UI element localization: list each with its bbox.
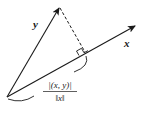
perpendicular-dashed-line <box>60 8 85 52</box>
label-x: x <box>123 37 130 49</box>
brace-curve <box>8 56 87 101</box>
formula-numerator: |(x, y)| <box>48 80 71 90</box>
label-y: y <box>31 18 38 30</box>
formula-denominator: ‖x‖ <box>55 93 64 103</box>
projection-diagram: y x |(x, y)| ‖x‖ <box>0 0 143 113</box>
